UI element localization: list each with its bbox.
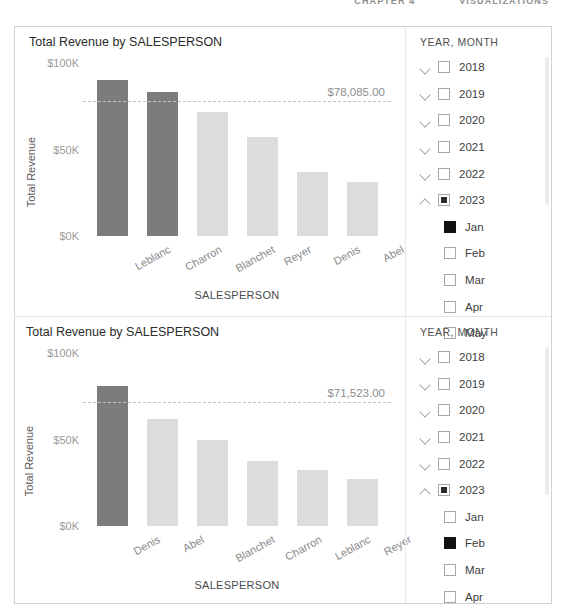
- filter-month-mar[interactable]: Mar: [406, 557, 552, 584]
- running-header: CHAPTER 4 VISUALIZATIONS: [0, 0, 567, 8]
- checkbox-icon[interactable]: [444, 564, 456, 576]
- x-axis-title: SALESPERSON: [87, 289, 387, 301]
- filter-year-2018[interactable]: 2018: [406, 54, 552, 81]
- x-axis-tick: Charron: [283, 533, 324, 563]
- bar-abel[interactable]: [147, 419, 178, 526]
- reference-line-label: $78,085.00: [327, 86, 385, 101]
- bar-charron[interactable]: [147, 92, 178, 236]
- bar-denis[interactable]: [297, 172, 328, 236]
- filter-title: YEAR, MONTH: [420, 36, 498, 48]
- checkbox-icon[interactable]: [438, 194, 450, 206]
- checkbox-icon[interactable]: [438, 141, 450, 153]
- x-axis-tick: Denis: [332, 243, 362, 267]
- checkbox-icon[interactable]: [444, 274, 456, 286]
- filter-item-label: 2018: [459, 61, 485, 73]
- bar-abel[interactable]: [347, 182, 378, 236]
- filter-item-label: 2020: [459, 114, 485, 126]
- checkbox-icon[interactable]: [438, 404, 450, 416]
- bar-blanchet[interactable]: [197, 112, 228, 236]
- filter-year-2023[interactable]: 2023: [406, 187, 552, 214]
- checkbox-icon[interactable]: [444, 301, 456, 313]
- checkbox-icon[interactable]: [438, 458, 450, 470]
- filter-item-label: Mar: [465, 274, 485, 286]
- chevron-down-icon[interactable]: [418, 60, 433, 75]
- filter-panel-feb: YEAR, MONTH 201820192020202120222023JanF…: [405, 317, 552, 604]
- filter-item-label: Apr: [465, 301, 483, 313]
- checkbox-icon[interactable]: [438, 88, 450, 100]
- filter-month-jan[interactable]: Jan: [406, 504, 552, 531]
- chevron-down-icon[interactable]: [418, 166, 433, 181]
- chart-title: Total Revenue by SALESPERSON: [26, 325, 219, 339]
- checkbox-icon[interactable]: [438, 431, 450, 443]
- panel-jan: Total Revenue by SALESPERSON Total Reven…: [15, 27, 552, 316]
- checkbox-icon[interactable]: [444, 221, 456, 233]
- chevron-up-icon[interactable]: [418, 483, 433, 498]
- filter-item-label: Feb: [465, 247, 485, 259]
- filter-year-2020[interactable]: 2020: [406, 107, 552, 134]
- filter-item-label: 2019: [459, 378, 485, 390]
- checkbox-icon[interactable]: [444, 537, 456, 549]
- chevron-down-icon[interactable]: [418, 456, 433, 471]
- checkbox-icon[interactable]: [444, 511, 456, 523]
- checkbox-icon[interactable]: [438, 114, 450, 126]
- filter-month-jan[interactable]: Jan: [406, 214, 552, 241]
- checkbox-icon[interactable]: [438, 168, 450, 180]
- reference-line: [83, 101, 391, 102]
- x-axis-tick: Abel: [381, 243, 406, 264]
- filter-year-2021[interactable]: 2021: [406, 424, 552, 451]
- chevron-down-icon[interactable]: [418, 430, 433, 445]
- chevron-down-icon[interactable]: [418, 86, 433, 101]
- filter-year-2019[interactable]: 2019: [406, 371, 552, 398]
- bar-denis[interactable]: [97, 386, 128, 526]
- y-axis-tick: $0K: [59, 230, 79, 242]
- filter-panel-jan: YEAR, MONTH 201820192020202120222023JanF…: [405, 27, 552, 316]
- chevron-down-icon[interactable]: [418, 376, 433, 391]
- bar-leblanc[interactable]: [297, 470, 328, 526]
- checkbox-icon[interactable]: [438, 378, 450, 390]
- checkbox-icon[interactable]: [438, 351, 450, 363]
- filter-year-2022[interactable]: 2022: [406, 450, 552, 477]
- filter-month-feb[interactable]: Feb: [406, 530, 552, 557]
- chevron-down-icon[interactable]: [418, 113, 433, 128]
- filter-year-2023[interactable]: 2023: [406, 477, 552, 504]
- plot-area: $0K$50K$100KDenisAbelBlanchetCharronLebl…: [87, 353, 387, 526]
- filter-item-label: 2018: [459, 351, 485, 363]
- chevron-down-icon[interactable]: [418, 350, 433, 365]
- chevron-up-icon[interactable]: [418, 193, 433, 208]
- chevron-down-icon[interactable]: [418, 403, 433, 418]
- y-axis-title: Total Revenue: [25, 136, 37, 206]
- x-axis-title: SALESPERSON: [87, 579, 387, 591]
- filter-item-label: 2022: [459, 458, 485, 470]
- checkbox-icon[interactable]: [438, 484, 450, 496]
- x-axis-tick: Charron: [183, 243, 224, 273]
- filter-month-apr[interactable]: Apr: [406, 583, 552, 604]
- filter-year-2019[interactable]: 2019: [406, 81, 552, 108]
- filter-item-label: 2020: [459, 404, 485, 416]
- bar-blanchet[interactable]: [197, 440, 228, 527]
- y-axis-tick: $0K: [59, 520, 79, 532]
- filter-year-2021[interactable]: 2021: [406, 134, 552, 161]
- filter-month-mar[interactable]: Mar: [406, 267, 552, 294]
- running-header-chapter: CHAPTER 4: [354, 0, 415, 6]
- filter-year-2018[interactable]: 2018: [406, 344, 552, 371]
- x-axis-tick: Blanchet: [233, 243, 276, 274]
- reference-line: [83, 402, 391, 403]
- filter-year-2020[interactable]: 2020: [406, 397, 552, 424]
- filter-year-2022[interactable]: 2022: [406, 160, 552, 187]
- filter-item-label: 2023: [459, 194, 485, 206]
- chart-title: Total Revenue by SALESPERSON: [29, 35, 222, 49]
- x-axis-tick: Leblanc: [133, 243, 173, 272]
- bar-charron[interactable]: [247, 461, 278, 526]
- filter-list: 201820192020202120222023JanFebMarAprMay: [406, 54, 552, 347]
- filter-month-feb[interactable]: Feb: [406, 240, 552, 267]
- filter-item-label: 2021: [459, 141, 485, 153]
- filter-item-label: 2023: [459, 484, 485, 496]
- checkbox-icon[interactable]: [444, 591, 456, 603]
- bar-reyer[interactable]: [347, 479, 378, 526]
- x-axis-tick: Leblanc: [333, 533, 373, 562]
- bar-leblanc[interactable]: [97, 80, 128, 236]
- bar-reyer[interactable]: [247, 137, 278, 236]
- chevron-down-icon[interactable]: [418, 140, 433, 155]
- checkbox-icon[interactable]: [444, 247, 456, 259]
- checkbox-icon[interactable]: [438, 61, 450, 73]
